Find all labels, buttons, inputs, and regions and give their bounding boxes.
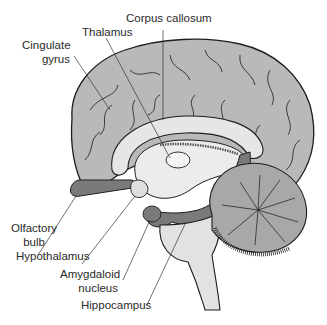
- olfactory-bulb: [70, 180, 135, 196]
- brainstem: [160, 215, 220, 310]
- label-amygdaloid-line2: nucleus: [60, 282, 118, 295]
- brain-diagram: Corpus callosum Thalamus Cingulate gyrus…: [0, 0, 327, 325]
- label-cingulate-gyrus-line1: Cingulate: [22, 39, 70, 52]
- hypothalamus: [131, 180, 148, 198]
- label-olfactory-bulb-line2: bulb: [6, 236, 62, 249]
- label-thalamus: Thalamus: [82, 26, 133, 39]
- amygdaloid-nucleus: [143, 206, 161, 222]
- thalamus: [166, 152, 190, 168]
- label-corpus-callosum: Corpus callosum: [126, 12, 212, 25]
- label-amygdaloid-line1: Amygdaloid: [60, 268, 118, 281]
- label-hypothalamus: Hypothalamus: [16, 250, 90, 263]
- leader-amygdaloid: [123, 220, 150, 280]
- label-hippocampus: Hippocampus: [81, 299, 151, 312]
- label-cingulate-gyrus-line2: gyrus: [22, 53, 70, 66]
- label-olfactory-bulb-line1: Olfactory: [6, 222, 62, 235]
